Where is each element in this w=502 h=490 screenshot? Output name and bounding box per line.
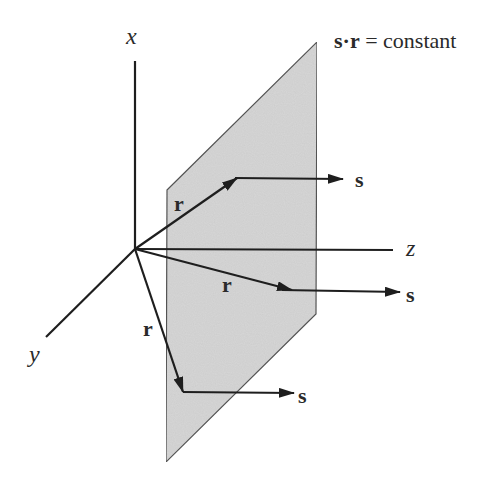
s-label-bottom: s: [298, 383, 307, 408]
s-label-top: s: [355, 167, 364, 192]
plane-wave-diagram: x z y r r r s s s s·r = constant: [0, 0, 502, 490]
y-axis: [46, 249, 135, 337]
constant-phase-plane: [166, 42, 317, 462]
s-vector-top: [235, 178, 343, 179]
r-label-bottom: r: [143, 316, 153, 341]
s-vector-bottom: [183, 392, 294, 393]
plane-equation: s·r = constant: [334, 28, 456, 53]
s-label-middle: s: [406, 282, 415, 307]
equation-rhs: = constant: [360, 28, 457, 53]
r-label-middle: r: [222, 272, 232, 297]
r-label-top: r: [174, 191, 184, 216]
x-axis-label: x: [125, 23, 137, 49]
z-axis: [135, 249, 393, 250]
y-axis-label: y: [27, 341, 40, 367]
equation-lhs: s·r: [334, 28, 360, 53]
z-axis-label: z: [405, 235, 416, 261]
